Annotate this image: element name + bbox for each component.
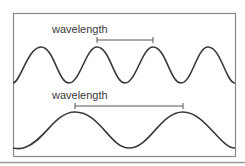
long-wavelength-bracket [75, 103, 183, 109]
wavelength-diagram [0, 0, 245, 166]
short-wavelength-wave [13, 47, 235, 83]
diagram-frame [14, 14, 236, 157]
long-wavelength-wave [13, 112, 235, 149]
short-wavelength-label: wavelength [52, 24, 108, 35]
short-wavelength-bracket [97, 37, 153, 43]
long-wavelength-label: wavelength [52, 90, 108, 101]
